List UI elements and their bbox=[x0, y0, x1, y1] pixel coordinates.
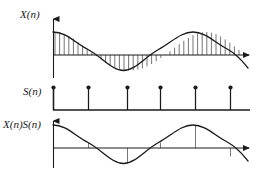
impulse-stems bbox=[54, 88, 231, 110]
plot-sampled-signal: X(n)S(n) bbox=[2, 118, 249, 168]
hatch-fill-region bbox=[55, 32, 244, 71]
plot3-label: X(n)S(n) bbox=[2, 118, 41, 131]
plot3-waveform bbox=[53, 125, 248, 164]
figure-canvas: X(n) bbox=[0, 0, 263, 188]
plot-continuous-signal: X(n) bbox=[19, 8, 249, 78]
plot-sampling-train: S(n) bbox=[23, 85, 250, 110]
plot1-label: X(n) bbox=[19, 8, 40, 21]
signal-sampling-figure: X(n) bbox=[0, 0, 263, 188]
plot2-label: S(n) bbox=[23, 85, 42, 98]
sample-stems bbox=[54, 125, 231, 163]
impulse-dots bbox=[51, 85, 232, 89]
